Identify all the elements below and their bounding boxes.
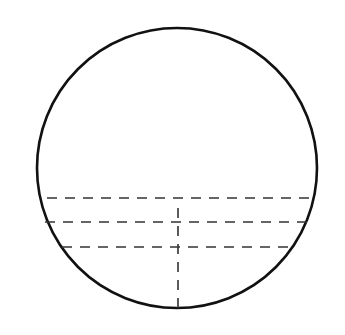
circle-outline: [37, 28, 317, 308]
circle-diagram: [0, 0, 345, 335]
